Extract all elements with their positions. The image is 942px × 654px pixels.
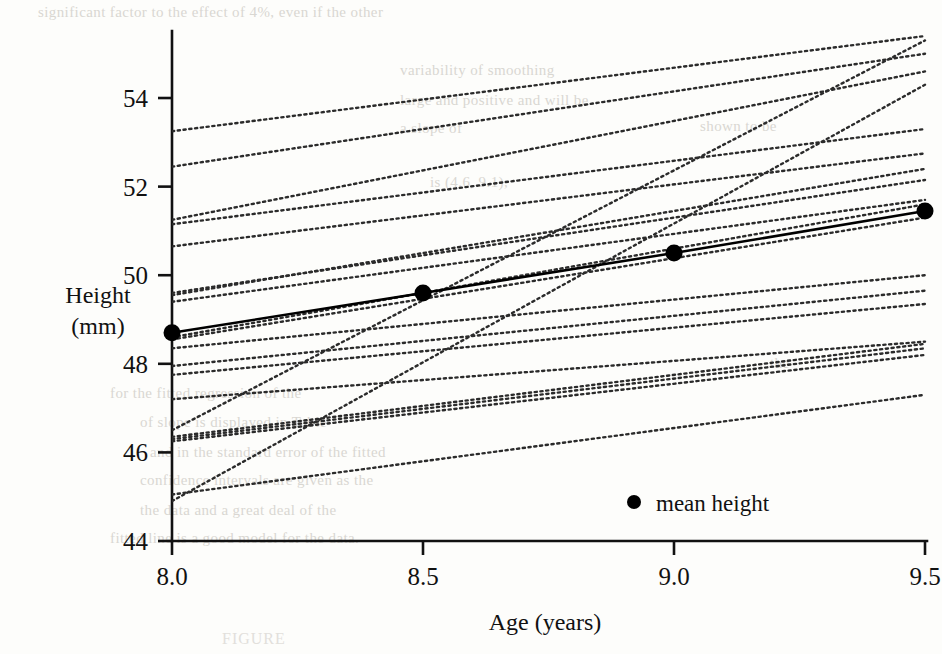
mean-height-point-9.0 <box>666 245 683 262</box>
subject-trajectory-lines <box>172 36 925 501</box>
y-axis-title-line1: Height <box>65 282 131 308</box>
y-tick-label-46: 46 <box>123 439 148 466</box>
subject-line-subject-02 <box>172 54 925 167</box>
x-tick-label-9.5: 9.5 <box>909 563 940 590</box>
legend-marker-mean-height <box>627 495 641 509</box>
mean-height-point-9.5 <box>917 202 934 219</box>
legend: mean height <box>627 491 770 516</box>
y-tick-label-44: 44 <box>123 528 149 555</box>
page-background: significant factor to the effect of 4%, … <box>0 0 942 654</box>
y-tick-label-54: 54 <box>123 85 149 112</box>
figure-container: 444648505254 8.08.59.09.5 Height (mm) Ag… <box>0 0 942 654</box>
subject-line-subject-19 <box>172 169 925 295</box>
y-tick-label-48: 48 <box>123 351 148 378</box>
subject-line-subject-16 <box>172 395 925 495</box>
subject-line-subject-20 <box>172 204 925 337</box>
x-axis-ticks: 8.08.59.09.5 <box>156 541 940 590</box>
figure-caption: FIGURE <box>222 630 286 648</box>
subject-line-subject-05 <box>172 153 925 246</box>
subject-line-subject-09 <box>172 275 925 348</box>
x-axis-title: Age (years) <box>489 609 602 635</box>
subject-line-subject-10 <box>172 291 925 366</box>
y-tick-label-52: 52 <box>123 174 148 201</box>
chart-svg: 444648505254 8.08.59.09.5 Height (mm) Ag… <box>0 0 942 654</box>
y-axis-ticks: 444648505254 <box>123 85 172 555</box>
subject-line-subject-17 <box>172 85 925 501</box>
subject-line-subject-04 <box>172 129 925 224</box>
subject-line-subject-03 <box>172 71 925 219</box>
x-tick-label-8.0: 8.0 <box>156 563 187 590</box>
subject-line-subject-15 <box>172 355 925 441</box>
subject-line-subject-18 <box>172 40 925 430</box>
mean-height-point-8.0 <box>164 324 181 341</box>
mean-height-point-8.5 <box>415 284 432 301</box>
x-tick-label-9.0: 9.0 <box>658 563 689 590</box>
subject-line-subject-14 <box>172 348 925 439</box>
x-tick-label-8.5: 8.5 <box>407 563 438 590</box>
legend-label-mean-height: mean height <box>656 491 770 516</box>
y-axis-title-line2: (mm) <box>71 313 124 339</box>
subject-line-subject-01 <box>172 36 925 131</box>
